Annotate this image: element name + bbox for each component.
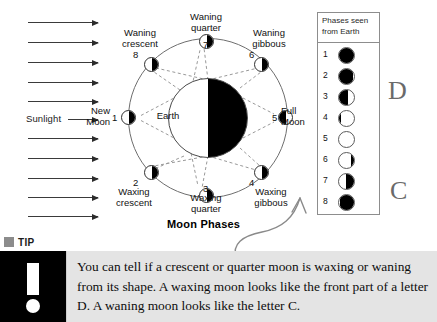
sunlight-ray	[28, 22, 98, 23]
sunlight-ray	[28, 62, 98, 63]
phase-appearance-disc-5	[338, 131, 355, 148]
sunlight-label: Sunlight	[26, 113, 61, 124]
table-row: 4	[318, 107, 379, 129]
phase-appearance-disc-6	[338, 152, 355, 169]
phase-number-1: 1	[112, 112, 117, 123]
table-row: 5	[318, 128, 379, 150]
phase-name-1: New Moon	[62, 106, 110, 127]
table-row: 3	[318, 86, 379, 108]
moon-shadow-half	[262, 166, 269, 179]
moon-disc-6	[254, 57, 269, 72]
moon-disc-2	[144, 165, 159, 180]
phase-name-8: Waning crescent	[107, 28, 173, 49]
phase-appearance-disc-1	[338, 47, 355, 64]
orbit-diagram: Earth	[128, 38, 288, 198]
earth-label: Earth	[128, 110, 208, 121]
moon-disc-8	[144, 57, 159, 72]
phases-table-header-line1: Phases seen	[322, 16, 368, 25]
phase-name-6: Waning gibbous	[234, 28, 304, 49]
phase-number-5: 5	[272, 112, 277, 123]
moon-shadow-half	[152, 58, 159, 71]
phase-row-index: 7	[323, 175, 328, 185]
phase-name-7: Waning quarter	[176, 12, 236, 33]
sunlight-ray	[28, 138, 98, 139]
phase-number-6: 6	[249, 49, 254, 60]
sunlight-ray	[28, 197, 98, 198]
phase-row-index: 4	[323, 112, 328, 122]
handwritten-letter-d: D	[388, 78, 407, 104]
phase-row-index: 3	[323, 91, 328, 101]
moon-disc-4	[254, 165, 269, 180]
table-row: 1	[318, 44, 379, 66]
phases-seen-from-earth-table: Phases seen from Earth 1 2 3 4 5 6 7	[317, 12, 380, 215]
phase-name-3: Waxing quarter	[176, 193, 236, 214]
exclamation-bar	[27, 263, 39, 295]
sunlight-ray	[28, 178, 98, 179]
phase-row-index: 2	[323, 70, 328, 80]
sunlight-ray	[28, 101, 98, 102]
phase-number-8: 8	[133, 49, 138, 60]
exclamation-mark-icon	[0, 251, 66, 322]
phase-appearance-disc-8	[338, 194, 355, 211]
phases-table-header: Phases seen from Earth	[318, 13, 379, 43]
tip-text: You can tell if a crescent or quarter mo…	[66, 251, 437, 322]
phases-table-header-line2: from Earth	[322, 27, 359, 36]
moon-disc-1	[121, 110, 136, 125]
sunlight-ray	[28, 216, 98, 217]
phase-name-2: Waxing crescent	[100, 187, 168, 208]
phase-appearance-disc-4	[338, 110, 355, 127]
tip-header: TIP	[4, 235, 34, 249]
phase-number-7: 7	[203, 39, 208, 50]
handwritten-letter-c: C	[390, 178, 407, 204]
phase-row-index: 8	[323, 196, 328, 206]
moon-shadow-half	[262, 58, 269, 71]
tip-square-icon	[4, 237, 14, 247]
table-row: 7	[318, 170, 379, 192]
moon-shadow-half	[129, 111, 136, 124]
phase-row-index: 6	[323, 154, 328, 164]
table-row: 2	[318, 65, 379, 87]
moon-shadow-half	[152, 166, 159, 179]
table-row: 8	[318, 191, 379, 213]
tip-callout: You can tell if a crescent or quarter mo…	[0, 251, 437, 322]
sunlight-ray	[28, 42, 98, 43]
phase-appearance-disc-2	[338, 68, 355, 85]
phase-row-index: 5	[323, 133, 328, 143]
phase-appearance-disc-7	[338, 173, 355, 190]
table-row: 6	[318, 149, 379, 171]
phase-row-index: 1	[323, 49, 328, 59]
moon-phases-figure: Sunlight	[0, 0, 437, 322]
sunlight-ray	[28, 158, 98, 159]
exclamation-dot	[26, 299, 40, 313]
tip-label: TIP	[18, 237, 34, 248]
sunlight-ray	[28, 82, 98, 83]
phase-appearance-disc-3	[338, 89, 355, 106]
